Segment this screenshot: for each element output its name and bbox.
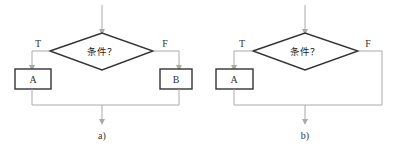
false-label: F: [365, 38, 371, 49]
true-branch-line: [32, 51, 50, 68]
false-branch-line: [153, 51, 179, 68]
merge-line: [32, 89, 179, 105]
false-label: F: [162, 38, 168, 49]
condition-text: 条件？: [290, 46, 320, 57]
process-label-a: A: [29, 74, 37, 85]
true-branch-line: [234, 51, 253, 68]
process-label-b: B: [173, 74, 180, 85]
diagram-b: 条件？ T F A b): [216, 5, 382, 142]
diagram-a: 条件？ T F A B a): [15, 5, 192, 142]
condition-text: 条件？: [87, 46, 117, 57]
false-branch-line: [358, 51, 382, 105]
caption-b: b): [301, 130, 309, 142]
true-label: T: [239, 38, 245, 49]
caption-a: a): [98, 130, 106, 142]
flowchart-canvas: 条件？ T F A B a) 条件？ T F A b): [0, 0, 395, 154]
process-label-a: A: [230, 74, 238, 85]
true-label: T: [35, 38, 41, 49]
merge-line: [234, 89, 382, 105]
